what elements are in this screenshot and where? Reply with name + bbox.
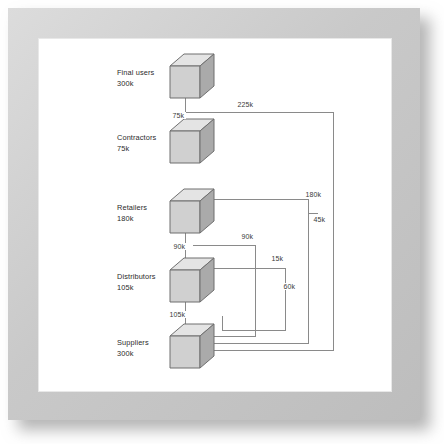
flow-label-90k-horiz: 90k <box>240 233 255 240</box>
cube-suppliers <box>170 324 214 368</box>
flow-label-60k: 60k <box>282 283 297 290</box>
flow-path-60k <box>222 268 285 330</box>
diagram-canvas: Final users300k Contractors75k Retailers… <box>0 0 444 444</box>
cube-distributors <box>170 258 214 302</box>
flow-label-90k-vert: 90k <box>172 243 187 250</box>
cube-final-users <box>170 54 214 98</box>
node-label-distributors: Distributors105k <box>117 272 156 293</box>
node-label-retailers: Retailers180k <box>117 203 147 224</box>
flow-label-75k: 75k <box>171 112 186 119</box>
flow-graphics <box>0 0 444 444</box>
flow-path-180k <box>200 199 308 343</box>
cube-retailers <box>170 189 214 233</box>
flow-label-105k: 105k <box>168 311 187 318</box>
node-label-suppliers: Suppliers300k <box>117 338 149 359</box>
flow-label-15k: 15k <box>270 255 285 262</box>
node-label-contractors: Contractors75k <box>117 133 156 154</box>
flow-label-225k: 225k <box>236 101 255 108</box>
node-cubes <box>170 54 214 368</box>
node-label-final-users: Final users300k <box>117 68 154 89</box>
cube-contractors <box>170 119 214 163</box>
flow-label-45k: 45k <box>312 216 327 223</box>
flow-label-180k: 180k <box>304 191 323 198</box>
